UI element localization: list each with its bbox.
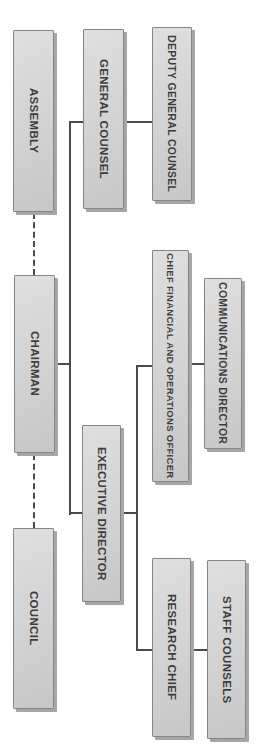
org-box-label-research-chief: RESEARCH CHIEF: [166, 594, 178, 700]
org-box-chief-financial-operations-officer: CHIEF FINANCIAL AND OPERATIONS OFFICER: [152, 250, 189, 482]
org-box-research-chief: RESEARCH CHIEF: [152, 558, 191, 737]
connector-cfoo-stub: [137, 365, 153, 367]
connector-dashed-assembly-chairman: [33, 213, 35, 275]
org-box-council: COUNCIL: [13, 528, 54, 709]
connector-general-counsel-stub: [70, 121, 84, 123]
connector-chairman-stub: [56, 363, 71, 365]
org-box-chairman: CHAIRMAN: [14, 275, 55, 453]
connector-cfoo-to-communications: [189, 363, 205, 365]
connector-trunk-executive-branch: [136, 365, 138, 651]
org-box-label-deputy-general-counsel: DEPUTY GENERAL COUNSEL: [166, 35, 178, 192]
org-box-deputy-general-counsel: DEPUTY GENERAL COUNSEL: [152, 27, 192, 201]
connector-research-chief-stub: [137, 649, 153, 651]
org-box-label-executive-director: EXECUTIVE DIRECTOR: [96, 447, 108, 581]
org-box-label-chairman: CHAIRMAN: [29, 331, 41, 396]
org-box-label-general-counsel: GENERAL COUNSEL: [98, 59, 110, 179]
org-box-label-staff-counsels: STAFF COUNSELS: [221, 596, 233, 704]
org-box-label-communications-director: COMMUNICATIONS DIRECTOR: [217, 282, 229, 444]
org-box-communications-director: COMMUNICATIONS DIRECTOR: [204, 278, 242, 449]
org-box-label-council: COUNCIL: [28, 591, 40, 646]
connector-gc-to-deputy-gc: [124, 121, 152, 123]
org-chart-canvas: ASSEMBLY GENERAL COUNSEL DEPUTY GENERAL …: [0, 0, 263, 750]
org-box-general-counsel: GENERAL COUNSEL: [83, 29, 124, 209]
org-box-executive-director: EXECUTIVE DIRECTOR: [82, 425, 121, 602]
org-box-assembly: ASSEMBLY: [13, 30, 54, 212]
connector-dashed-chairman-council: [33, 454, 35, 528]
connector-research-to-staff-counsels: [191, 649, 208, 651]
org-box-staff-counsels: STAFF COUNSELS: [207, 560, 246, 739]
org-box-label-assembly: ASSEMBLY: [28, 88, 40, 153]
org-box-label-cfoo: CHIEF FINANCIAL AND OPERATIONS OFFICER: [165, 253, 176, 479]
connector-trunk-chairman-branch: [69, 121, 71, 515]
